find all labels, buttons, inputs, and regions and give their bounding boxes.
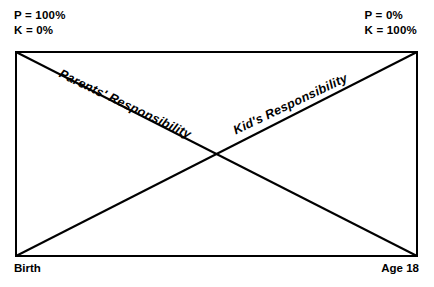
axis-label-birth: Birth xyxy=(14,261,41,275)
responsibility-crossover-diagram: P = 100% K = 0% P = 0% K = 100% Parents'… xyxy=(0,0,434,287)
axis-label-age-18: Age 18 xyxy=(381,261,419,275)
plot-frame-and-diagonals xyxy=(0,0,434,287)
